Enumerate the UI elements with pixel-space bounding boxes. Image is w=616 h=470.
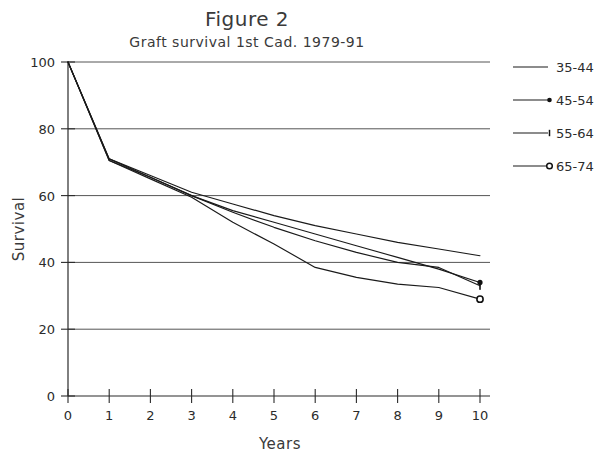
page-title: Figure 2 [205,7,289,31]
legend-item-45-54[interactable]: 45-54 [513,93,594,108]
series-end-marker-65-74 [477,296,483,302]
y-tick-labels: 100 80 60 40 20 0 [30,55,55,404]
graft-survival-line-chart: Figure 2 Graft survival 1st Cad. 1979-91 [0,0,616,470]
legend-item-65-74[interactable]: 65-74 [513,159,594,174]
x-tick-label-7: 7 [352,408,360,423]
legend-open-circle-icon [547,163,553,169]
x-tick-label-3: 3 [187,408,195,423]
series-line-45-54 [68,62,480,282]
x-tick-label-4: 4 [229,408,237,423]
figure-container: Figure 2 Graft survival 1st Cad. 1979-91 [0,0,616,470]
x-axis-label: Years [258,435,301,453]
chart-legend: 35-4445-5455-6465-74 [513,60,594,174]
legend-label-45-54: 45-54 [556,93,594,108]
x-tick-label-8: 8 [393,408,401,423]
x-tick-label-9: 9 [435,408,443,423]
x-tick-label-6: 6 [311,408,319,423]
x-tick-label-2: 2 [146,408,154,423]
legend-item-55-64[interactable]: 55-64 [513,126,594,141]
chart-subtitle: Graft survival 1st Cad. 1979-91 [129,34,364,50]
x-tick-label-0: 0 [64,408,72,423]
series-line-55-64 [68,62,480,286]
y-tick-label-80: 80 [38,122,55,137]
x-tick-label-10: 10 [472,408,489,423]
legend-filled-dot-icon [547,98,552,103]
legend-label-55-64: 55-64 [556,126,594,141]
y-tick-label-60: 60 [38,189,55,204]
x-tick-label-5: 5 [270,408,278,423]
gridlines [68,62,490,329]
y-tick-label-100: 100 [30,55,55,70]
x-tick-labels: 0 1 2 3 4 5 6 7 8 9 10 [64,408,488,423]
y-tick-label-40: 40 [38,255,55,270]
legend-label-65-74: 65-74 [556,159,594,174]
data-series-layer [68,62,483,302]
x-tick-label-1: 1 [105,408,113,423]
y-axis-label: Survival [10,197,28,261]
y-tick-label-20: 20 [38,322,55,337]
legend-label-35-44: 35-44 [556,60,594,75]
legend-item-35-44[interactable]: 35-44 [513,60,594,75]
series-line-35-44 [68,62,480,256]
y-tick-label-0: 0 [47,389,55,404]
